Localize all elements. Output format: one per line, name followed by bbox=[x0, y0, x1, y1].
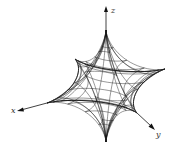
y-axis: y bbox=[137, 113, 161, 139]
x-axis-arrowhead-icon bbox=[17, 108, 24, 112]
mesh-line bbox=[106, 30, 165, 142]
y-axis-label: y bbox=[155, 130, 161, 139]
z-axis-arrowhead-icon bbox=[104, 6, 108, 12]
surface-wireframe bbox=[47, 30, 165, 142]
mesh-line bbox=[47, 30, 106, 142]
mesh-line bbox=[58, 30, 106, 142]
mesh-line bbox=[106, 30, 154, 142]
astroidal-surface-figure: z x y bbox=[0, 0, 176, 154]
x-axis-label: x bbox=[11, 106, 16, 115]
z-axis-label: z bbox=[110, 6, 116, 15]
x-axis: x bbox=[11, 103, 47, 115]
z-axis: z bbox=[104, 6, 116, 30]
equator-outline bbox=[47, 59, 165, 113]
mesh-line bbox=[47, 59, 165, 113]
